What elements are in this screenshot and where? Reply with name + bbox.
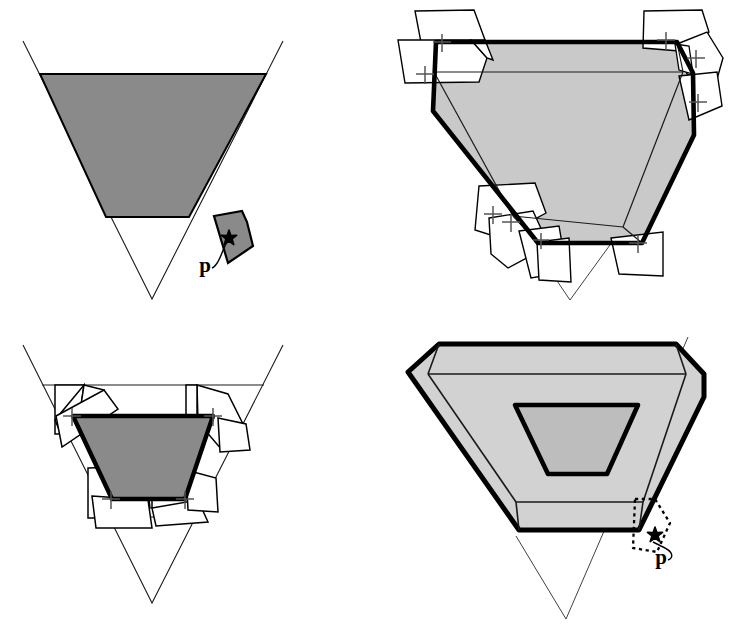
shaded-band-tl (40, 74, 266, 217)
p-label: p (199, 253, 211, 277)
p-label: p (655, 545, 667, 569)
figure-root: p (0, 0, 742, 625)
panel-top-left: p (0, 0, 371, 312)
point-marker-br (647, 527, 662, 542)
panel-top-right (371, 0, 742, 312)
panel-bottom-right: p (371, 312, 742, 625)
panel-bottom-left (0, 312, 371, 625)
